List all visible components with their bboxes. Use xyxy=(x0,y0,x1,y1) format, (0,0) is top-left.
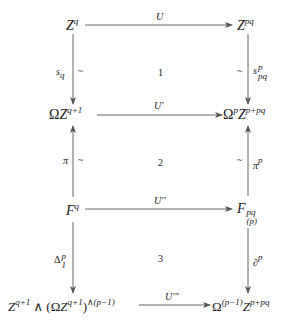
label-U-double-prime: U′′ xyxy=(154,196,166,206)
equiv-left-1: ~ xyxy=(78,66,83,76)
label-pi-p: πp xyxy=(253,156,263,171)
label-s-pq-p: sppq xyxy=(253,63,267,81)
node-Fpq-p: Fpq(p) xyxy=(237,202,257,226)
label-U-triple-prime: U′′′ xyxy=(165,292,179,302)
node-Omega-p-1-Z: Ω(p−1)Zp+pq xyxy=(212,298,270,313)
label-U-prime: U′ xyxy=(154,101,163,111)
cell-label-3: 3 xyxy=(158,253,163,264)
equiv-right-2: ~ xyxy=(237,155,242,165)
label-pi: π xyxy=(63,156,68,166)
cell-label-1: 1 xyxy=(158,67,163,78)
label-U: U xyxy=(156,12,163,22)
arrows-layer xyxy=(0,0,295,326)
node-Zpq: Zpq xyxy=(237,17,254,33)
node-Zq: Zq xyxy=(66,17,78,33)
equiv-left-2: ~ xyxy=(78,155,83,165)
cell-label-2: 2 xyxy=(158,157,163,168)
label-s-q: sq xyxy=(56,67,64,80)
node-OmegaZq1: ΩZq+1 xyxy=(49,106,82,122)
node-wedge-product: Zq+1 ∧ (ΩZq+1)∧(p−1) xyxy=(8,298,115,313)
label-delta: Δp1 xyxy=(54,252,66,270)
label-partial-p: ∂p xyxy=(253,253,262,268)
equiv-right-1: ~ xyxy=(237,66,242,76)
node-OmegaPZ: ΩpZp+pq xyxy=(223,106,265,122)
node-Fq: Fq xyxy=(66,202,79,218)
